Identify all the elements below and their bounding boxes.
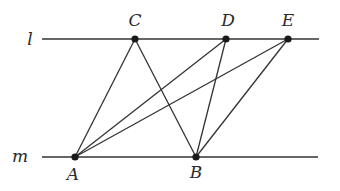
point-label-B: B <box>189 162 203 182</box>
segments <box>75 39 288 157</box>
point-B <box>192 153 199 160</box>
point-label-E: E <box>281 10 295 30</box>
point-label-A: A <box>65 164 79 184</box>
point-A <box>71 153 78 160</box>
point-D <box>222 35 229 42</box>
segment-BD <box>196 39 226 157</box>
labels: lmCDEAB <box>12 10 295 184</box>
line-label-l: l <box>27 29 32 49</box>
point-E <box>284 35 291 42</box>
segment-AC <box>75 39 135 157</box>
point-label-C: C <box>128 10 141 30</box>
point-label-D: D <box>220 10 235 30</box>
segment-BE <box>196 39 288 157</box>
segment-BC <box>135 39 196 157</box>
line-label-m: m <box>12 146 28 166</box>
geometry-diagram: lmCDEAB <box>0 0 340 191</box>
segment-AD <box>75 39 226 157</box>
segment-AE <box>75 39 288 157</box>
point-C <box>131 35 138 42</box>
